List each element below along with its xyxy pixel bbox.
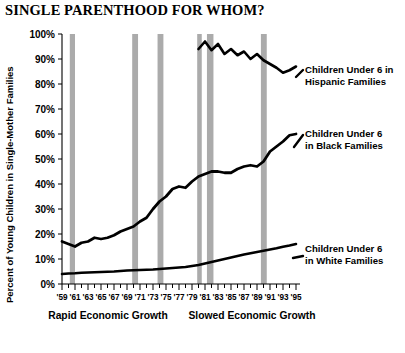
leader-black <box>294 135 303 147</box>
x-tick-label: '63 <box>82 293 94 302</box>
x-tick-label: '91 <box>264 293 276 302</box>
y-tick-label: 40% <box>35 179 55 190</box>
x-tick-label: '85 <box>225 293 237 302</box>
y-tick-label: 50% <box>35 154 55 165</box>
recession-band <box>132 34 138 284</box>
y-tick-label: 20% <box>35 229 55 240</box>
x-tick-label: '77 <box>173 293 185 302</box>
y-ticks-group: 0%10%20%30%40%50%60%70%80%90%100% <box>29 29 62 290</box>
y-axis-label: Percent of Young Children in Single-Moth… <box>4 66 15 303</box>
chart-plot-area: 0%10%20%30%40%50%60%70%80%90%100% '59'61… <box>0 22 405 322</box>
x-tick-label: '73 <box>147 293 159 302</box>
recession-band <box>158 34 164 284</box>
x-tick-label: '69 <box>121 293 133 302</box>
leader-white <box>293 256 303 258</box>
series-label-white-line2: in White Families <box>305 255 383 266</box>
x-tick-label: '95 <box>290 293 302 302</box>
series-label-white-line1: Children Under 6 <box>305 243 382 254</box>
x-tick-label: '89 <box>251 293 263 302</box>
x-tick-label: '75 <box>160 293 172 302</box>
recession-bands-group <box>70 34 267 284</box>
leader-hispanic <box>296 70 303 77</box>
x-tick-label: '61 <box>69 293 81 302</box>
series-label-hispanic-line1: Children Under 6 in <box>305 64 394 75</box>
recession-band <box>207 34 214 284</box>
chart-svg: 0%10%20%30%40%50%60%70%80%90%100% '59'61… <box>0 22 405 322</box>
era-annotations-group: Rapid Economic Growth Slowed Economic Gr… <box>48 310 315 321</box>
x-tick-label: '59 <box>56 293 68 302</box>
x-tick-label: '93 <box>277 293 289 302</box>
y-tick-label: 90% <box>35 54 55 65</box>
y-tick-label: 70% <box>35 104 55 115</box>
y-tick-label: 80% <box>35 79 55 90</box>
series-labels-group: Children Under 6 in Hispanic Families Ch… <box>305 64 394 266</box>
y-axis-label-group: Percent of Young Children in Single-Moth… <box>4 66 15 303</box>
x-tick-label: '79 <box>186 293 198 302</box>
x-tick-label: '67 <box>108 293 120 302</box>
x-tick-label: '83 <box>212 293 224 302</box>
y-tick-label: 10% <box>35 254 55 265</box>
y-tick-label: 60% <box>35 129 55 140</box>
series-label-hispanic-line2: Hispanic Families <box>305 76 386 87</box>
data-lines-group <box>62 42 303 275</box>
x-tick-label: '71 <box>134 293 146 302</box>
recession-band <box>197 34 202 284</box>
era-label-right: Slowed Economic Growth <box>188 310 315 321</box>
y-tick-label: 30% <box>35 204 55 215</box>
x-ticks-group: '59'61'63'65'67'69'71'73'75'77'79'81'83'… <box>56 284 302 302</box>
x-tick-label: '87 <box>238 293 250 302</box>
series-label-black-line2: in Black Families <box>305 140 383 151</box>
x-tick-label: '81 <box>199 293 211 302</box>
y-tick-label: 0% <box>41 279 56 290</box>
y-tick-label: 100% <box>29 29 55 40</box>
page-title: SINGLE PARENTHOOD FOR WHOM? <box>5 2 265 19</box>
era-label-left: Rapid Economic Growth <box>48 310 168 321</box>
series-label-black-line1: Children Under 6 <box>305 128 382 139</box>
x-tick-label: '65 <box>95 293 107 302</box>
